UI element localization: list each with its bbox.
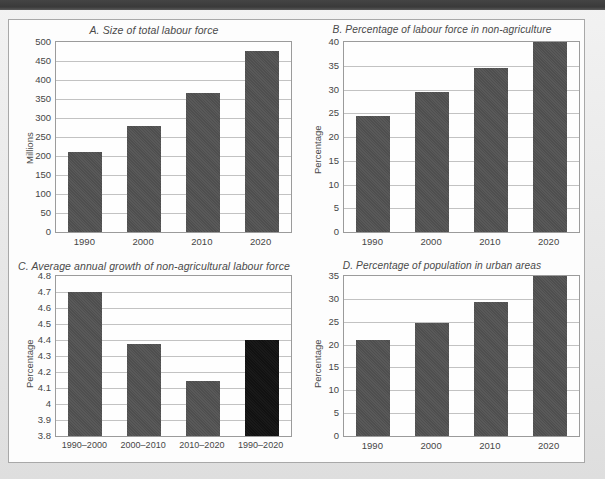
y-tick-label: 20	[328, 338, 339, 349]
chart-a-plot-area	[55, 41, 292, 233]
chart-b-y-ticks: 0510152025303540	[299, 41, 339, 233]
y-tick-label: 4.4	[38, 334, 51, 345]
y-tick-label: 300	[35, 112, 51, 123]
y-tick-label: 15	[328, 154, 339, 165]
chart-b-plot-area	[343, 41, 580, 233]
y-tick-label: 450	[35, 55, 51, 66]
y-tick-label: 500	[35, 36, 51, 47]
y-tick-label: 200	[35, 150, 51, 161]
chart-b: B. Percentage of labour force in non-agr…	[299, 24, 585, 260]
y-tick-label: 100	[35, 188, 51, 199]
y-tick-label: 250	[35, 131, 51, 142]
x-tick-label: 1990	[362, 236, 383, 247]
bar	[127, 344, 161, 436]
chart-d: D. Percentage of population in urban are…	[299, 260, 585, 462]
chart-a-y-ticks: 050100150200250300350400450500	[11, 41, 51, 233]
y-tick-label: 10	[328, 178, 339, 189]
bar	[533, 276, 567, 436]
chart-c-plot-area	[55, 275, 292, 437]
chart-c: C. Average annual growth of non-agricult…	[11, 260, 297, 462]
bar	[245, 51, 279, 232]
chart-c-y-ticks: 3.83.944.14.24.34.44.54.64.74.8	[11, 275, 51, 437]
y-tick-label: 4.3	[38, 350, 51, 361]
y-tick-label: 5	[334, 407, 339, 418]
y-tick-label: 4.7	[38, 286, 51, 297]
y-tick-label: 3.8	[38, 430, 51, 441]
y-tick-label: 4.5	[38, 318, 51, 329]
y-tick-label: 4.2	[38, 366, 51, 377]
y-tick-label: 5	[334, 202, 339, 213]
y-tick-label: 0	[334, 430, 339, 441]
bar	[356, 116, 390, 232]
chart-a: A. Size of total labour force Millions 0…	[11, 24, 297, 260]
x-tick-label: 1990–2020	[238, 440, 283, 450]
figure-page: A. Size of total labour force Millions 0…	[0, 0, 605, 479]
x-tick-label: 2010–2020	[179, 440, 224, 450]
chart-b-title: B. Percentage of labour force in non-agr…	[299, 24, 585, 35]
y-tick-label: 10	[328, 384, 339, 395]
bar	[474, 302, 508, 436]
y-tick-label: 35	[328, 59, 339, 70]
x-tick-label: 1990	[362, 440, 383, 451]
chart-c-title: C. Average annual growth of non-agricult…	[11, 260, 297, 272]
x-tick-label: 2000	[133, 236, 154, 247]
figure-panel: A. Size of total labour force Millions 0…	[8, 19, 585, 463]
bar	[245, 340, 279, 436]
y-tick-label: 4.6	[38, 302, 51, 313]
bar	[415, 323, 449, 436]
x-tick-label: 2020	[538, 440, 559, 451]
bar	[474, 68, 508, 232]
y-tick-label: 25	[328, 107, 339, 118]
y-tick-label: 3.9	[38, 414, 51, 425]
y-tick-label: 30	[328, 83, 339, 94]
x-tick-label: 2010	[479, 236, 500, 247]
y-tick-label: 50	[40, 207, 51, 218]
page-top-band	[0, 0, 605, 10]
y-tick-label: 0	[46, 226, 51, 237]
bar	[127, 126, 161, 232]
y-tick-label: 4	[46, 398, 51, 409]
y-tick-label: 15	[328, 361, 339, 372]
y-tick-label: 150	[35, 169, 51, 180]
x-tick-label: 1990	[74, 236, 95, 247]
bar	[356, 340, 390, 436]
bar	[186, 381, 220, 436]
y-tick-label: 30	[328, 292, 339, 303]
y-tick-label: 35	[328, 270, 339, 281]
chart-d-title: D. Percentage of population in urban are…	[299, 260, 585, 271]
y-tick-label: 350	[35, 93, 51, 104]
y-tick-label: 400	[35, 74, 51, 85]
y-tick-label: 4.1	[38, 382, 51, 393]
x-tick-label: 2010	[479, 440, 500, 451]
bar	[68, 152, 102, 232]
chart-a-title: A. Size of total labour force	[11, 24, 297, 36]
x-tick-label: 2000–2010	[121, 440, 166, 450]
chart-grid: A. Size of total labour force Millions 0…	[9, 20, 584, 462]
x-tick-label: 2020	[538, 236, 559, 247]
x-tick-label: 2010	[191, 236, 212, 247]
bar	[415, 92, 449, 232]
chart-d-plot-area	[343, 275, 580, 437]
x-tick-label: 2020	[250, 236, 271, 247]
chart-d-y-ticks: 05101520253035	[299, 275, 339, 437]
y-tick-label: 4.8	[38, 270, 51, 281]
x-tick-label: 2000	[421, 440, 442, 451]
x-tick-label: 1990–2000	[62, 440, 107, 450]
bar	[533, 42, 567, 232]
y-tick-label: 20	[328, 131, 339, 142]
x-tick-label: 2000	[421, 236, 442, 247]
y-tick-label: 25	[328, 315, 339, 326]
bar	[68, 292, 102, 436]
y-tick-label: 40	[328, 36, 339, 47]
y-tick-label: 0	[334, 226, 339, 237]
bar	[186, 93, 220, 232]
